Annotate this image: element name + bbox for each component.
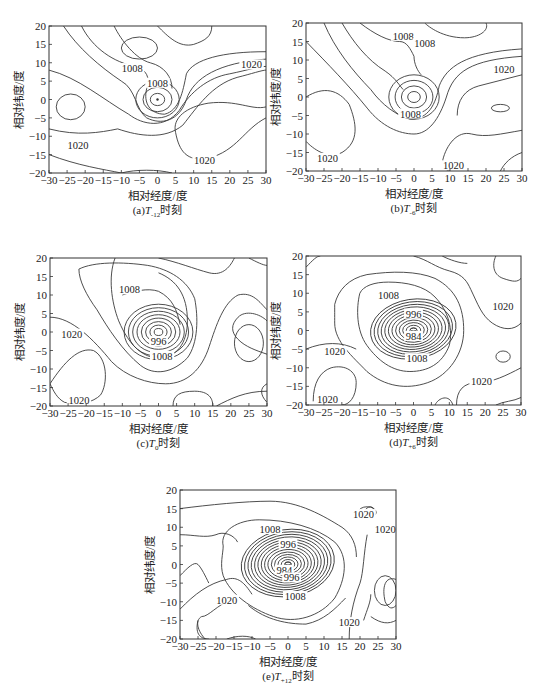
x-tick-label: −30	[171, 640, 189, 652]
contour-label: 1020	[443, 160, 464, 171]
isobar	[358, 282, 451, 371]
contour-plot-a: 10081008102010201020−30−25−20−15−10−5051…	[0, 0, 539, 688]
y-tick-label: −5	[35, 345, 47, 357]
x-tick-label: 10	[445, 172, 457, 184]
panel-caption: (c)T0时刻	[109, 434, 209, 452]
contour-lines: 100899698410081020102010201020	[306, 256, 521, 405]
y-axis-label: 相对纬度/度	[267, 291, 281, 371]
isobar	[349, 535, 367, 639]
x-tick-label: 10	[189, 407, 201, 419]
x-tick-label: 15	[337, 640, 349, 652]
caption-suffix: 时刻	[292, 670, 314, 682]
y-tick-label: −15	[30, 382, 48, 394]
contour-label: 1020	[375, 524, 396, 535]
y-tick-label: −5	[291, 343, 303, 355]
isobar-ring	[136, 81, 179, 118]
isobar	[180, 501, 356, 557]
isobar	[173, 391, 213, 406]
x-tick-label: 0	[156, 407, 162, 419]
high-pressure-cell	[234, 325, 263, 362]
isobar-ring	[281, 559, 295, 569]
isobar	[262, 384, 267, 403]
y-tick-label: −20	[286, 399, 304, 411]
isobar	[435, 398, 453, 405]
isobar	[306, 91, 355, 155]
panel-caption: (e)T+12时刻	[238, 667, 338, 685]
x-tick-label: −15	[95, 174, 113, 186]
x-tick-label: −20	[78, 407, 96, 419]
x-tick-label: −20	[77, 174, 95, 186]
isobar-ring	[395, 316, 432, 343]
isobar	[175, 102, 266, 159]
x-tick-label: 15	[207, 407, 219, 419]
contour-label: 1008	[122, 63, 143, 74]
panel-d: 100899698410081020102010201020−30−25−20−…	[0, 0, 539, 688]
isobar	[180, 533, 238, 542]
isobar-ring	[402, 322, 424, 338]
isobar	[216, 391, 267, 406]
contour-label: 996	[151, 336, 167, 347]
x-axis-label: 相对经度/度	[108, 187, 208, 203]
plot-frame	[49, 26, 266, 173]
x-tick-label: −20	[207, 640, 225, 652]
y-axis-label: 相对纬度/度	[267, 57, 281, 137]
caption-suffix: 时刻	[158, 437, 180, 449]
closed-isobar	[121, 37, 157, 59]
y-tick-label: −10	[160, 596, 178, 608]
panel-caption: (a)T-12时刻	[108, 201, 208, 219]
isobar-ring	[143, 87, 172, 111]
contour-label: 1008	[260, 524, 281, 535]
x-axis-label: 相对经度/度	[364, 419, 464, 435]
contour-label: 984	[406, 331, 423, 342]
isobar	[49, 155, 121, 173]
isobar-ring	[391, 313, 436, 346]
isobar-ring	[128, 308, 188, 357]
isobar	[342, 23, 403, 90]
plot-frame	[306, 256, 521, 405]
contour-label: 1020	[353, 509, 374, 520]
isobar-ring	[260, 542, 316, 585]
x-tick-label: 5	[429, 406, 435, 418]
x-tick-label: 20	[355, 640, 367, 652]
isobar-ring	[124, 304, 193, 360]
caption-time-offset: +12	[281, 677, 292, 685]
y-tick-label: 20	[166, 484, 178, 496]
x-tick-label: −20	[333, 172, 351, 184]
y-tick-label: −10	[30, 363, 48, 375]
contour-label: 1020	[317, 394, 338, 405]
isobar	[180, 578, 252, 609]
contour-label: 1020	[67, 140, 88, 151]
isobar	[50, 350, 105, 404]
isobar	[425, 23, 487, 38]
x-tick-label: 20	[225, 407, 237, 419]
isobar-ring	[389, 75, 439, 119]
y-tick-label: −10	[286, 128, 304, 140]
isobar	[442, 256, 467, 263]
contour-label: 1008	[378, 290, 399, 301]
x-tick-label: −25	[315, 406, 333, 418]
isobar-ring	[285, 562, 292, 567]
x-tick-label: −5	[134, 174, 146, 186]
contour-label: 1008	[285, 591, 306, 602]
x-tick-label: −5	[390, 406, 402, 418]
y-tick-label: 15	[35, 38, 47, 50]
x-tick-label: −10	[369, 406, 387, 418]
plot-frame	[50, 258, 267, 406]
isobar-ring	[244, 530, 331, 597]
isobar-ring	[271, 551, 306, 577]
panel-a: 10081008102010201020−30−25−20−15−10−5051…	[0, 0, 539, 688]
x-tick-label: 0	[411, 406, 417, 418]
isobar	[335, 272, 464, 386]
y-tick-label: 10	[35, 57, 47, 69]
isobar	[50, 294, 267, 384]
isobar-ring	[146, 322, 172, 343]
isobar	[227, 636, 256, 639]
isobar-ring	[236, 523, 339, 603]
contour-label: 1008	[119, 284, 140, 295]
isobar-ring	[154, 329, 163, 336]
isobar-ring	[395, 80, 433, 113]
contour-label: 984	[277, 565, 294, 576]
x-tick-label: 0	[155, 174, 161, 186]
x-tick-label: −15	[351, 406, 369, 418]
isobar-ring	[410, 328, 417, 333]
